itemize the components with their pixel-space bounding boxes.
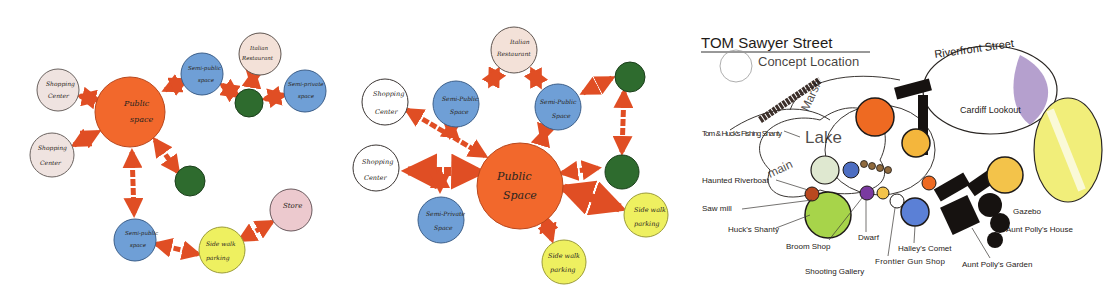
private-space-bubble (605, 155, 639, 189)
semi-private-space-bubble (418, 197, 464, 243)
shopping-center-bubble (30, 133, 74, 177)
semi-public-space-label: Semi-Public (540, 98, 577, 105)
public-space-label: Public (496, 170, 532, 183)
private-space-bubble (175, 166, 205, 196)
aunt-pollys-house-label: Aunt Polly's House (1006, 225, 1073, 234)
semi-public-space-label: Semi-public (188, 65, 221, 72)
sawmill-label: Saw mill (702, 204, 732, 213)
public-space-bubble (477, 143, 563, 229)
halleys-comet-label: Halley's Comet (898, 244, 952, 253)
frontier-gun-shop-label: Frontier Gun Shop (875, 257, 946, 266)
shopping-center-label: Shopping (373, 90, 404, 98)
main-label: main (765, 157, 794, 181)
semi-private-space-bubble (284, 70, 326, 112)
shopping-center-label-2: Center (40, 159, 62, 166)
shopping-center-label-2: Center (375, 108, 398, 116)
italian-restaurant-label: Italian (509, 38, 530, 45)
bubble-diagrams: Public space Shopping Center Shopping Ce… (0, 0, 1109, 302)
fishing-shanty-label: Tom & Huck's Fishing Shanty (702, 129, 782, 138)
panel-3-concept-sketch: TOM Sawyer Street Concept Location Marsh… (701, 34, 1102, 276)
italian-restaurant-bubble (239, 33, 281, 75)
shopping-center-label: Shopping (38, 144, 67, 152)
semi-public-space-label-2: space (198, 77, 215, 84)
store-bubble (270, 189, 312, 231)
sidewalk-parking-bubble (199, 227, 245, 273)
dwarf-label: Dwarf (858, 233, 880, 242)
gazebo-label: Gazebo (1013, 207, 1042, 216)
public-space-label: Public (123, 99, 150, 108)
shopping-center-label: Shopping (362, 158, 393, 166)
private-space-bubble (615, 62, 645, 92)
semi-public-space-label-2: Space (552, 112, 571, 120)
broom-shop-label: Broom Shop (786, 242, 831, 251)
semi-public-space-label: Semi-public (125, 230, 158, 237)
italian-restaurant-label: Italian (249, 45, 268, 51)
semi-private-space-label: Semi-private (288, 81, 324, 88)
semi-private-space-label-2: space (298, 93, 315, 100)
sidewalk-parking-label-2: parking (634, 220, 660, 228)
semi-public-space-bubble (535, 84, 581, 130)
private-space-bubble (235, 89, 263, 117)
italian-restaurant-label-2: Restaurant (496, 50, 531, 57)
hucks-shanty-label: Huck's Shanty (728, 225, 779, 234)
semi-private-space-label: Semi-Private (426, 210, 465, 217)
public-space-bubble (95, 77, 165, 147)
shopping-center-label-2: Center (364, 174, 387, 182)
shopping-center-bubble (353, 145, 399, 191)
aunt-pollys-garden-label: Aunt Polly's Garden (962, 260, 1032, 269)
semi-private-space-label-2: Space (434, 224, 453, 232)
sidewalk-parking-label: Side walk (548, 252, 580, 260)
shopping-center-bubble (362, 79, 408, 125)
shooting-gallery-label: Shooting Gallery (805, 267, 864, 276)
sketch-title: TOM Sawyer Street (701, 34, 833, 51)
haunted-riverboat-label: Haunted Riverboat (702, 176, 769, 185)
sidewalk-parking-label-2: parking (550, 266, 576, 274)
semi-public-space-bubble (181, 53, 223, 95)
sketch-subtitle: Concept Location (758, 54, 859, 69)
semi-public-space-bubble (114, 219, 156, 261)
sidewalk-parking-bubble (542, 240, 586, 284)
blue-bubble (901, 198, 929, 226)
semi-public-space-label-2: space (130, 242, 147, 249)
public-space-label-2: Space (503, 189, 537, 202)
shopping-center-label: Shopping (46, 80, 75, 88)
shopping-center-bubble (37, 69, 79, 111)
italian-restaurant-label-2: Restaurant (241, 55, 274, 61)
panel-2-bubble-diagram: Public Space Italian Restaurant Shopping… (353, 27, 668, 284)
semi-public-space-label: Semi-Public (442, 95, 479, 102)
cardiff-lookout-label: Cardiff Lookout (960, 105, 1021, 115)
store-label: Store (283, 202, 302, 210)
sidewalk-parking-label-2: parking (206, 254, 230, 262)
lake-label: Lake (805, 128, 842, 147)
sidewalk-parking-label: Side walk (206, 240, 236, 247)
semi-public-space-label-2: Space (450, 108, 469, 116)
sidewalk-parking-label: Side walk (634, 206, 666, 214)
public-space-label-2: space (130, 115, 153, 124)
orange-bubble (856, 98, 894, 136)
shopping-center-label-2: Center (48, 92, 70, 99)
sidewalk-parking-bubble (624, 193, 668, 237)
semi-public-space-bubble (433, 81, 479, 127)
panel-1-bubble-diagram: Public space Shopping Center Shopping Ce… (30, 33, 326, 273)
